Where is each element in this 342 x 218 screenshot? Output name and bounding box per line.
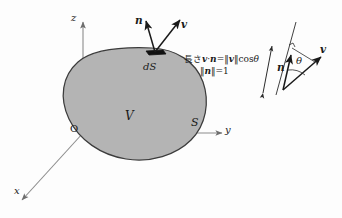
- z-axis-label: z: [71, 13, 76, 23]
- inset-velocity-label: v: [320, 44, 326, 55]
- annotation-cos: cos: [238, 54, 253, 64]
- annotation-length-word: 長さ: [184, 54, 202, 64]
- velocity-vector-label: v: [181, 19, 187, 30]
- surface-label: S: [191, 117, 199, 128]
- figure-canvas: [0, 0, 342, 218]
- annotation-theta: θ: [254, 54, 259, 64]
- field-vectors: [146, 20, 180, 52]
- inset-angle-label: θ: [296, 56, 302, 66]
- x-axis: [22, 133, 83, 200]
- flux-annotation: 長さv·n=‖v‖cosθ ‖n‖=1: [184, 53, 259, 78]
- origin-label: O: [70, 124, 78, 134]
- annotation-unit-value: 1: [223, 66, 229, 76]
- x-axis-label: x: [14, 186, 20, 196]
- angle-inset: [263, 22, 321, 95]
- volume-label: V: [125, 110, 134, 122]
- annotation-line-2: ‖n‖=1: [200, 65, 259, 77]
- y-axis-label: y: [225, 125, 231, 135]
- projection-measure-arrow: [263, 46, 272, 93]
- surface-element-label: dS: [143, 62, 156, 72]
- vector-flux-figure: z y x O V S dS n v n v θ 長さv·n=‖v‖cosθ ‖…: [0, 0, 342, 218]
- velocity-vector-arrow: [155, 20, 180, 52]
- annotation-equals-2: =: [216, 66, 224, 76]
- normal-vector-label: n: [135, 15, 143, 26]
- inset-normal-label: n: [277, 62, 285, 73]
- inset-normal-line: [276, 22, 296, 95]
- annotation-line-1: 長さv·n=‖v‖cosθ: [184, 53, 259, 65]
